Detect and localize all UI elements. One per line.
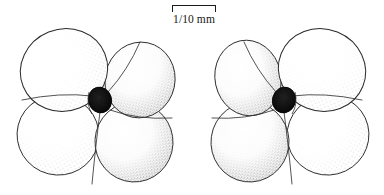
specimen-drawing-canvas	[0, 0, 384, 195]
figure-plate: 1/10 mm	[0, 0, 384, 195]
scale-bar: 1/10 mm	[165, 5, 223, 29]
scale-bar-rule	[172, 5, 216, 12]
scale-bar-label: 1/10 mm	[165, 13, 223, 26]
